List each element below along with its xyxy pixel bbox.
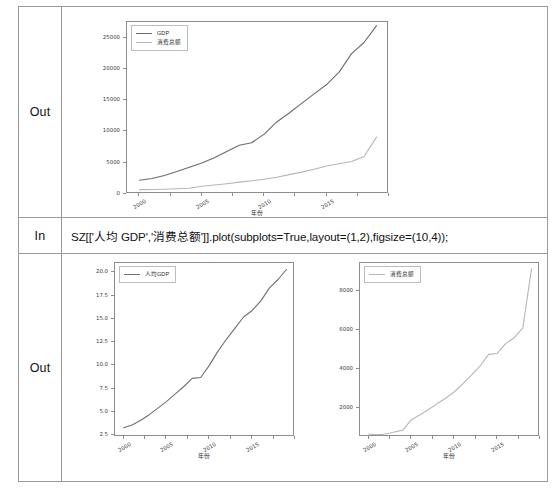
y-tick-mark (123, 37, 126, 38)
x-tick-mark (410, 436, 411, 439)
x-tick-mark (518, 436, 519, 439)
x-tick-mark (251, 436, 252, 439)
x-tick-mark (263, 193, 264, 196)
series-line (369, 269, 532, 435)
y-tick-label: 15.0 (70, 315, 108, 321)
x-tick-mark (230, 436, 231, 439)
x-axis-label: 年份 (359, 451, 539, 460)
x-tick-mark (294, 436, 295, 439)
plot-lines-percapita (115, 263, 294, 436)
x-tick-mark (201, 193, 202, 196)
y-tick-mark (111, 388, 114, 389)
x-tick-mark (165, 436, 166, 439)
x-tick-mark (453, 436, 454, 439)
legend-percapita[interactable]: 人均GDP (119, 266, 176, 283)
y-tick-label: 2.5 (70, 431, 108, 437)
x-tick-mark (326, 193, 327, 196)
x-tick-mark (170, 193, 171, 196)
legend-label: 消费总额 (157, 38, 181, 47)
y-tick-label: 7.5 (70, 385, 108, 391)
x-tick-mark (273, 436, 274, 439)
legend-item: GDP (136, 29, 181, 38)
legend-line-swatch (369, 274, 385, 275)
y-tick-label: 10000 (82, 127, 120, 133)
y-tick-mark (111, 341, 114, 342)
y-tick-label: 10.0 (70, 361, 108, 367)
x-tick-mark (357, 193, 358, 196)
y-tick-label: 25000 (82, 34, 120, 40)
y-tick-label: 12.5 (70, 338, 108, 344)
code-text: SZ[['人均 GDP','消费总额']].plot(subplots=True… (71, 228, 448, 244)
x-tick-mark (475, 436, 476, 439)
y-tick-label: 4000 (317, 365, 353, 371)
y-tick-mark (111, 411, 114, 412)
x-tick-mark (294, 193, 295, 196)
x-tick-mark (539, 436, 540, 439)
y-tick-mark (111, 434, 114, 435)
y-tick-mark (123, 162, 126, 163)
output-cell-subplots: 2.55.07.510.012.515.017.520.020002005201… (62, 254, 547, 481)
figure-consumption: 20004000600080002000200520102015年份消费总额 (317, 256, 547, 456)
series-line (139, 137, 376, 190)
x-tick-mark (187, 436, 188, 439)
y-tick-label: 6000 (317, 326, 353, 332)
output-cell-combined-chart: 0500010000150002000025000200020052010201… (62, 7, 547, 217)
legend-label: GDP (157, 29, 169, 38)
notebook-row-out-2: Out 2.55.07.510.012.515.017.520.02000200… (19, 254, 547, 481)
y-tick-mark (111, 364, 114, 365)
x-axis-label: 年份 (114, 451, 294, 460)
y-tick-label: 5000 (82, 159, 120, 165)
legend-label: 消费总额 (390, 270, 414, 279)
gutter-label-out-1: Out (19, 7, 62, 217)
y-tick-label: 2000 (317, 404, 353, 410)
notebook-row-in: In SZ[['人均 GDP','消费总额']].plot(subplots=T… (19, 218, 547, 254)
legend-line-swatch (136, 33, 152, 34)
y-tick-mark (356, 290, 359, 291)
y-tick-mark (123, 193, 126, 194)
y-tick-label: 0 (82, 190, 120, 196)
x-tick-mark (208, 436, 209, 439)
y-tick-mark (356, 329, 359, 330)
notebook-row-out-1: Out 050001000015000200002500020002005201… (19, 7, 547, 218)
legend-consumption[interactable]: 消费总额 (364, 266, 421, 283)
series-line (124, 270, 287, 428)
code-input-cell[interactable]: SZ[['人均 GDP','消费总额']].plot(subplots=True… (62, 218, 547, 253)
y-tick-label: 15000 (82, 96, 120, 102)
legend-item: 消费总额 (136, 38, 181, 47)
y-tick-mark (111, 271, 114, 272)
figure-combined: 0500010000150002000025000200020052010201… (82, 11, 412, 215)
x-tick-mark (496, 436, 497, 439)
gutter-label-in: In (19, 218, 62, 253)
y-tick-mark (111, 295, 114, 296)
legend-item: 人均GDP (124, 270, 169, 279)
plot-area-consumption (359, 262, 539, 436)
x-tick-mark (144, 436, 145, 439)
x-tick-mark (368, 436, 369, 439)
y-tick-label: 5.0 (70, 408, 108, 414)
x-tick-mark (123, 436, 124, 439)
x-axis-label: 年份 (126, 208, 388, 217)
x-tick-mark (232, 193, 233, 196)
gutter-label-out-2: Out (19, 254, 62, 481)
legend-line-swatch (136, 42, 152, 43)
x-tick-mark (138, 193, 139, 196)
legend-combined[interactable]: GDP消费总额 (131, 25, 188, 51)
plot-lines-consumption (360, 263, 539, 436)
x-tick-mark (389, 436, 390, 439)
y-tick-label: 20000 (82, 65, 120, 71)
y-tick-mark (111, 318, 114, 319)
y-tick-mark (123, 68, 126, 69)
y-tick-mark (123, 130, 126, 131)
y-tick-mark (356, 407, 359, 408)
plot-area-percapita (114, 262, 294, 436)
y-tick-label: 20.0 (70, 268, 108, 274)
x-tick-mark (388, 193, 389, 196)
figure-percapita: 2.55.07.510.012.515.017.520.020002005201… (70, 256, 310, 456)
notebook-table: Out 050001000015000200002500020002005201… (18, 6, 548, 482)
y-tick-mark (123, 99, 126, 100)
legend-line-swatch (124, 274, 140, 275)
legend-item: 消费总额 (369, 270, 414, 279)
x-tick-mark (432, 436, 433, 439)
y-tick-label: 17.5 (70, 292, 108, 298)
legend-label: 人均GDP (145, 270, 169, 279)
